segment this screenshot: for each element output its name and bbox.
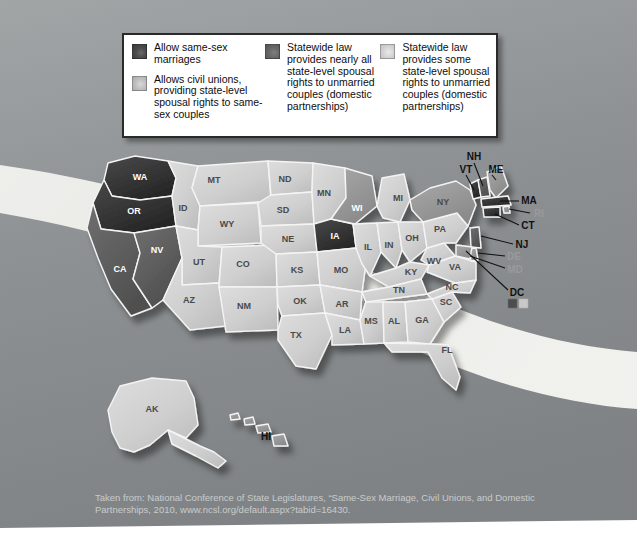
legend-label-civil-union: Allows civil unions, providing state-lev… bbox=[154, 74, 265, 121]
callout-label-DE: DE bbox=[507, 251, 521, 262]
legend-swatch-nearly-all-icon bbox=[265, 44, 280, 59]
state-label-WY: WY bbox=[220, 219, 235, 229]
state-label-NM: NM bbox=[237, 301, 251, 311]
state-label-TX: TX bbox=[290, 330, 302, 340]
dc-swatches bbox=[508, 299, 528, 308]
state-label-CO: CO bbox=[236, 259, 250, 269]
state-HI-1 bbox=[230, 413, 240, 420]
state-label-IA: IA bbox=[331, 231, 341, 241]
legend-swatch-civil-union-icon bbox=[132, 76, 147, 91]
state-label-OH: OH bbox=[405, 233, 419, 243]
state-label-FL: FL bbox=[442, 345, 453, 355]
state-label-MT: MT bbox=[208, 175, 221, 185]
state-label-ND: ND bbox=[279, 174, 292, 184]
state-label-PA: PA bbox=[434, 224, 446, 234]
callout-label-RI: RI bbox=[534, 208, 544, 219]
state-label-WV: WV bbox=[427, 256, 442, 266]
legend-label-nearly-all: Statewide law provides nearly all state-… bbox=[287, 42, 380, 113]
state-NJ bbox=[470, 227, 481, 248]
state-label-MI: MI bbox=[393, 193, 403, 203]
callout-label-HI: HI bbox=[261, 431, 271, 442]
callout-label-VT: VT bbox=[460, 164, 473, 175]
dc-swatch-dark bbox=[508, 299, 517, 308]
state-label-IN: IN bbox=[385, 240, 394, 250]
state-label-SC: SC bbox=[440, 297, 453, 307]
state-label-NE: NE bbox=[282, 234, 295, 244]
leader-CT bbox=[495, 214, 519, 225]
dc-swatch-light bbox=[519, 299, 528, 308]
state-label-GA: GA bbox=[415, 315, 429, 325]
state-label-MO: MO bbox=[334, 265, 349, 275]
legend-swatch-some-rights-icon bbox=[380, 44, 395, 59]
source-caption: Taken from: National Conference of State… bbox=[95, 492, 565, 516]
callout-label-CT: CT bbox=[521, 220, 534, 231]
state-MD bbox=[456, 245, 472, 259]
state-label-IL: IL bbox=[364, 242, 373, 252]
legend-label-marriage: Allow same-sex marriages bbox=[154, 42, 265, 66]
legend-item-nearly-all: Statewide law provides nearly all state-… bbox=[265, 42, 380, 113]
state-label-OK: OK bbox=[293, 296, 307, 306]
legend-label-some-rights: Statewide law provides some state-level … bbox=[402, 42, 490, 113]
state-HI-2 bbox=[244, 417, 255, 425]
caption-line-2: Partnerships, 2010, www.ncsl.org/default… bbox=[95, 504, 565, 516]
state-label-SD: SD bbox=[277, 205, 290, 215]
callout-label-DC: DC bbox=[510, 287, 524, 298]
state-label-NV: NV bbox=[151, 245, 164, 255]
legend-item-marriage: Allow same-sex marriages bbox=[132, 42, 265, 66]
leader-NJ bbox=[481, 236, 513, 244]
callout-label-MD: MD bbox=[507, 264, 523, 275]
slide-canvas: WA OR CA NV ID MT WY UT AZ CO NM ND SD N… bbox=[0, 0, 637, 554]
state-label-TN: TN bbox=[393, 285, 405, 295]
callout-label-ME: ME bbox=[489, 164, 504, 175]
legend-column-3: Statewide law provides some state-level … bbox=[380, 42, 490, 136]
state-label-CA: CA bbox=[114, 264, 127, 274]
caption-line-1: Taken from: National Conference of State… bbox=[95, 492, 565, 504]
state-label-AR: AR bbox=[336, 299, 349, 309]
state-label-AL: AL bbox=[388, 316, 400, 326]
state-label-NC: NC bbox=[446, 282, 459, 292]
legend-swatch-marriage-icon bbox=[132, 44, 147, 59]
leader-RI bbox=[509, 209, 530, 213]
callout-label-NH: NH bbox=[467, 151, 481, 162]
state-label-MS: MS bbox=[364, 316, 378, 326]
state-label-KY: KY bbox=[405, 267, 418, 277]
legend-column-1: Allow same-sex marriages Allows civil un… bbox=[132, 42, 265, 136]
callout-label-NJ: NJ bbox=[516, 239, 529, 250]
state-label-MN: MN bbox=[317, 188, 331, 198]
state-label-KS: KS bbox=[291, 265, 304, 275]
state-label-NY: NY bbox=[437, 197, 450, 207]
state-label-AZ: AZ bbox=[183, 295, 195, 305]
state-label-AK: AK bbox=[146, 404, 159, 414]
state-TX bbox=[278, 313, 332, 369]
legend-item-civil-union: Allows civil unions, providing state-lev… bbox=[132, 74, 265, 121]
legend-item-some-rights: Statewide law provides some state-level … bbox=[380, 42, 490, 113]
state-label-LA: LA bbox=[339, 325, 351, 335]
state-label-WA: WA bbox=[133, 172, 148, 182]
state-label-ID: ID bbox=[179, 203, 189, 213]
state-label-WI: WI bbox=[352, 203, 363, 213]
state-label-UT: UT bbox=[193, 257, 205, 267]
state-label-VA: VA bbox=[449, 262, 461, 272]
legend-box: Allow same-sex marriages Allows civil un… bbox=[122, 33, 498, 138]
legend-column-2: Statewide law provides nearly all state-… bbox=[265, 42, 380, 136]
callout-label-MA: MA bbox=[521, 195, 537, 206]
state-HI-4 bbox=[272, 434, 288, 446]
leader-DE bbox=[478, 253, 505, 256]
state-label-OR: OR bbox=[127, 206, 141, 216]
state-AK-tail bbox=[168, 430, 226, 468]
state-MT bbox=[192, 161, 271, 206]
